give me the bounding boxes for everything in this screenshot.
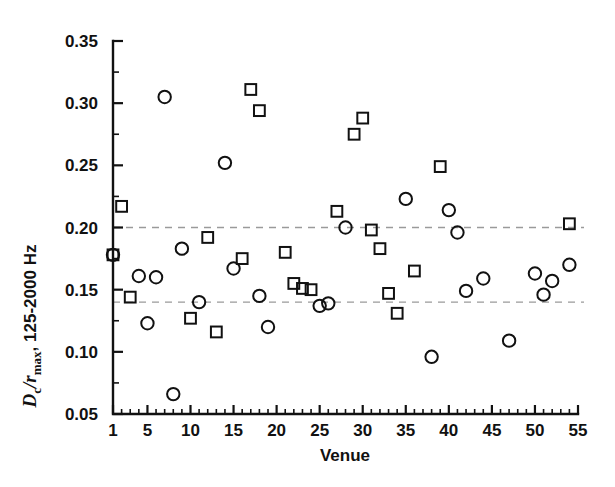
data-point-square — [280, 247, 291, 258]
x-tick-label-55: 55 — [569, 421, 588, 440]
y-axis-title-dc-symbol: D — [19, 393, 40, 408]
y-tick-label-0.25: 0.25 — [65, 156, 98, 175]
x-tick-label-40: 40 — [439, 421, 458, 440]
series-squares — [108, 84, 575, 337]
x-axis-title: Venue — [320, 446, 370, 465]
data-point-square — [202, 232, 213, 243]
y-tick-label-0.05: 0.05 — [65, 405, 98, 424]
x-tick-label-1: 1 — [108, 421, 117, 440]
data-point-square — [211, 327, 222, 338]
x-tick-label-5: 5 — [143, 421, 152, 440]
y-tick-label-0.15: 0.15 — [65, 281, 98, 300]
y-tick-label-0.10: 0.10 — [65, 343, 98, 362]
data-point-square — [245, 84, 256, 95]
data-point-square — [237, 253, 248, 264]
data-point-circle — [253, 290, 265, 302]
data-point-square — [383, 288, 394, 299]
data-point-circle — [563, 259, 575, 271]
data-point-circle — [400, 193, 412, 205]
x-tick-label-20: 20 — [267, 421, 286, 440]
x-tick-label-30: 30 — [353, 421, 372, 440]
series-circles — [107, 91, 576, 401]
scatter-plot-figure: 1510152025303540455055 0.050.100.150.200… — [0, 0, 615, 487]
data-point-circle — [176, 242, 188, 254]
data-point-circle — [529, 267, 541, 279]
x-tick-label-25: 25 — [310, 421, 329, 440]
data-point-square — [392, 308, 403, 319]
data-point-circle — [219, 157, 231, 169]
y-axis-title-r-subscript: max — [29, 351, 44, 375]
x-tick-label-50: 50 — [525, 421, 544, 440]
data-markers-group — [107, 84, 576, 400]
x-tick-label-15: 15 — [224, 421, 243, 440]
data-point-square — [116, 201, 127, 212]
x-axis-tick-labels-group: 1510152025303540455055 — [108, 421, 587, 440]
data-point-circle — [460, 285, 472, 297]
data-point-square — [125, 292, 136, 303]
data-point-square — [357, 113, 368, 124]
data-point-circle — [322, 297, 334, 309]
data-point-square — [366, 225, 377, 236]
data-point-circle — [141, 317, 153, 329]
data-point-circle — [262, 321, 274, 333]
data-point-circle — [313, 300, 325, 312]
y-tick-label-0.30: 0.30 — [65, 94, 98, 113]
data-point-square — [409, 266, 420, 277]
data-point-square — [254, 105, 265, 116]
y-tick-label-0.35: 0.35 — [65, 32, 98, 51]
x-axis-ticks-group — [113, 405, 578, 414]
reference-lines-group — [113, 228, 584, 303]
chart-canvas: 1510152025303540455055 0.050.100.150.200… — [0, 0, 615, 487]
x-tick-label-10: 10 — [181, 421, 200, 440]
data-point-circle — [477, 272, 489, 284]
y-axis-tick-labels-group: 0.050.100.150.200.250.300.35 — [65, 32, 98, 424]
y-axis-title-text: Dc/rmax, 125-2000 Hz — [19, 245, 44, 409]
y-axis-title-rest: , 125-2000 Hz — [21, 245, 40, 352]
data-point-circle — [167, 388, 179, 400]
data-point-square — [349, 129, 360, 140]
data-point-circle — [443, 204, 455, 216]
data-point-square — [185, 313, 196, 324]
data-point-circle — [425, 351, 437, 363]
y-axis-title: Dc/rmax, 125-2000 Hz — [19, 245, 44, 409]
x-tick-label-35: 35 — [396, 421, 415, 440]
x-tick-label-45: 45 — [482, 421, 501, 440]
data-point-square — [375, 243, 386, 254]
y-axis-ticks-group — [113, 41, 123, 414]
data-point-square — [435, 161, 446, 172]
y-tick-label-0.20: 0.20 — [65, 219, 98, 238]
data-point-circle — [546, 275, 558, 287]
data-point-circle — [503, 334, 515, 346]
data-point-circle — [150, 271, 162, 283]
data-point-circle — [133, 270, 145, 282]
data-point-circle — [537, 288, 549, 300]
data-point-square — [331, 206, 342, 217]
data-point-circle — [158, 91, 170, 103]
